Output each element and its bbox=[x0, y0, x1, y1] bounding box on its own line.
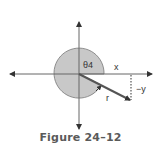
angle-label: θ4 bbox=[83, 60, 93, 70]
x-label: x bbox=[114, 62, 119, 72]
neg-y-label: −y bbox=[136, 84, 146, 94]
polar-angle-diagram: θ4 x −y r bbox=[0, 0, 161, 149]
figure-caption: Figure 24–12 bbox=[0, 131, 161, 144]
r-label: r bbox=[106, 93, 109, 103]
